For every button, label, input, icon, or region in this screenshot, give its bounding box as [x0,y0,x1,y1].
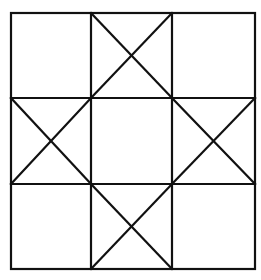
outer-square [11,13,255,269]
cell-middle-left-cross [11,98,91,184]
cell-top-middle-cross [91,13,172,98]
cell-bottom-middle-cross [91,184,172,269]
cell-middle-right-cross [172,98,255,184]
quilt-block-diagram [0,0,261,280]
